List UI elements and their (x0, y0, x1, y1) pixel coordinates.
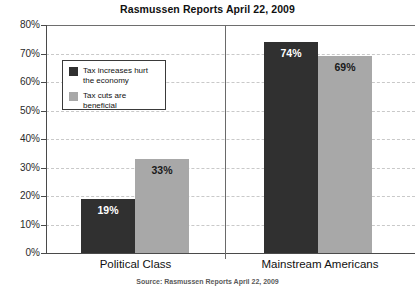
bar-chart: Rasmussen Reports April 22, 2009 80% 70%… (0, 0, 415, 286)
gridline-80 (46, 25, 415, 26)
bar-mainstream-tax-increases: 74% (264, 42, 318, 253)
y-tick-label-60: 60% (2, 76, 40, 87)
category-label-political-class: Political Class (46, 258, 225, 270)
legend-label-tax-cuts-line2: beneficial (83, 101, 117, 110)
category-label-mainstream-americans: Mainstream Americans (225, 258, 415, 270)
legend-label-tax-increases: Tax increases hurt the economy (83, 66, 148, 85)
x-axis-line (46, 253, 415, 254)
y-axis-line (46, 25, 47, 254)
chart-title: Rasmussen Reports April 22, 2009 (0, 3, 415, 15)
bar-mainstream-tax-cuts: 69% (318, 56, 372, 253)
y-tick-label-20: 20% (2, 190, 40, 201)
bar-political-class-tax-cuts: 33% (135, 159, 189, 253)
legend-item-tax-cuts: Tax cuts are beneficial (69, 91, 160, 110)
y-tick-label-40: 40% (2, 133, 40, 144)
bar-value-political-class-light: 33% (135, 164, 189, 176)
legend-item-tax-increases: Tax increases hurt the economy (69, 66, 160, 85)
legend-swatch-light-icon (69, 92, 78, 101)
y-tick-label-50: 50% (2, 105, 40, 116)
legend-label-tax-cuts-line1: Tax cuts are (83, 91, 126, 100)
y-tick-label-80: 80% (2, 19, 40, 30)
legend-label-tax-increases-line2: the economy (83, 76, 129, 85)
bar-value-political-class-dark: 19% (81, 204, 135, 216)
group-divider-line (225, 25, 226, 254)
bar-political-class-tax-increases: 19% (81, 199, 135, 253)
legend-swatch-dark-icon (69, 67, 78, 76)
legend-label-tax-increases-line1: Tax increases hurt (83, 66, 148, 75)
legend-label-tax-cuts: Tax cuts are beneficial (83, 91, 126, 110)
chart-legend: Tax increases hurt the economy Tax cuts … (62, 60, 166, 110)
bar-value-mainstream-light: 69% (318, 61, 372, 73)
bar-value-mainstream-dark: 74% (264, 47, 318, 59)
y-tick-label-30: 30% (2, 162, 40, 173)
y-tick-label-70: 70% (2, 48, 40, 59)
y-tick-label-10: 10% (2, 219, 40, 230)
gridline-70 (46, 54, 415, 55)
y-tick-label-0: 0% (2, 247, 40, 258)
source-note: Source: Rasmussen Reports April 22, 2009 (0, 278, 415, 285)
